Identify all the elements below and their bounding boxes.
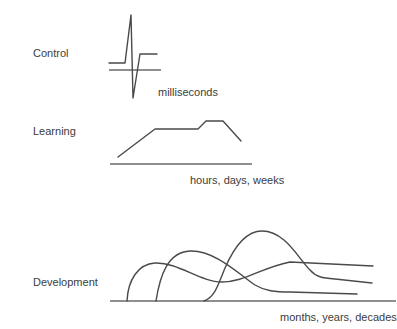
control-spike-curve [109,15,157,98]
development-panel [110,231,396,301]
control-panel [109,15,161,98]
learning-curve [118,121,241,157]
learning-panel [110,121,252,164]
development-curve-middle [156,251,357,301]
